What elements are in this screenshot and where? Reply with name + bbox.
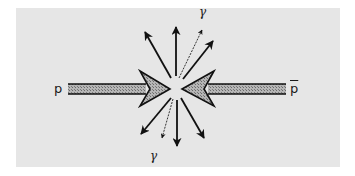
outgoing-tracks-down bbox=[141, 98, 204, 146]
track-up-left bbox=[145, 32, 171, 78]
gamma-label-top: γ bbox=[199, 6, 206, 18]
antiproton-label: p bbox=[290, 82, 298, 95]
proton-beam bbox=[68, 71, 170, 106]
gamma-label-bottom: γ bbox=[150, 150, 157, 162]
antiproton-beam bbox=[182, 71, 286, 106]
proton-label: p bbox=[54, 82, 62, 95]
outgoing-tracks-up bbox=[145, 27, 213, 79]
track-down-right bbox=[181, 98, 204, 138]
photon-track-down bbox=[162, 99, 173, 138]
